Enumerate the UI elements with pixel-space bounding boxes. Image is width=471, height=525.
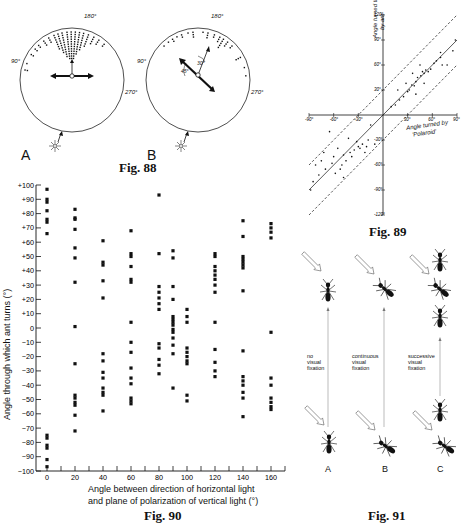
ant-icon [431, 433, 459, 459]
fig91-caption: Fig. 91 [368, 508, 406, 524]
fig91-diagram [0, 0, 471, 525]
fig91-panel-b-label: B [382, 464, 388, 474]
fig91-panel-b-text: continuous visual fixation [352, 353, 379, 371]
ant-icon [371, 276, 399, 303]
ant-icon [320, 279, 336, 302]
ant-icon [432, 399, 448, 422]
fig91-panel-a-label: A [325, 464, 331, 474]
fig91-b-text-line3: fixation [352, 365, 379, 371]
fig91-c-text-line3: fixation [408, 365, 435, 371]
fig91-panel-a-text: no visual fixation [307, 353, 324, 371]
fig91-panel-c-text: successive visual fixation [408, 353, 435, 371]
ant-icon [432, 249, 448, 272]
ant-icon [372, 433, 400, 459]
fig91-a-text-line3: fixation [307, 365, 324, 371]
ant-icon [321, 431, 337, 454]
fig91-panel-c-label: C [437, 464, 444, 474]
ant-icon [432, 305, 448, 328]
ant-icon [426, 276, 454, 303]
